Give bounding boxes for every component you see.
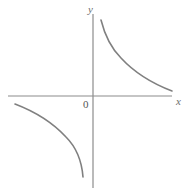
x-axis-label: x (176, 96, 181, 107)
hyperbola-figure: y x 0 (0, 0, 191, 192)
origin-label: 0 (83, 99, 89, 110)
y-axis-label: y (88, 4, 93, 15)
coordinate-plot (0, 0, 191, 192)
hyperbola-branch-quadrant-3 (15, 104, 83, 177)
hyperbola-branch-quadrant-1 (101, 20, 172, 91)
